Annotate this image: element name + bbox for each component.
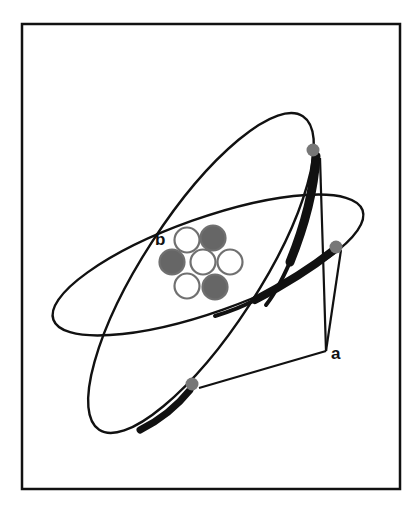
motion-trail-right-thin <box>215 300 255 316</box>
electron <box>186 378 199 391</box>
neutron-particle <box>191 250 216 275</box>
neutron-particle <box>218 250 243 275</box>
proton-particle <box>203 275 228 300</box>
proton-particle <box>160 250 185 275</box>
electron <box>330 241 343 254</box>
label-a: a <box>331 345 340 362</box>
proton-particle <box>201 226 226 251</box>
electron <box>307 144 320 157</box>
neutron-particle <box>175 274 200 299</box>
atom-diagram: a b <box>0 0 413 508</box>
motion-trail-bottom <box>140 390 190 430</box>
nucleus <box>160 226 243 300</box>
label-b: b <box>155 231 165 248</box>
motion-trail-top <box>290 156 316 262</box>
diagram-canvas <box>0 0 413 508</box>
neutron-particle <box>175 228 200 253</box>
